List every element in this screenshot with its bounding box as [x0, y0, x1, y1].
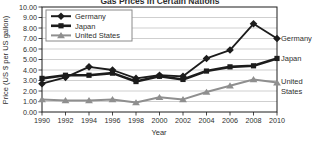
y-tick-label: 5.00 [23, 55, 37, 64]
x-tick-label: 2004 [199, 116, 215, 125]
x-tick-label: 2000 [152, 116, 168, 125]
marker-square-japan [227, 64, 232, 69]
x-tick-label: 2010 [269, 116, 285, 125]
marker-square-japan [204, 68, 209, 73]
legend-item-label: Germany [75, 12, 106, 21]
chart-title: Gas Prices in Certain Nations [100, 0, 219, 6]
marker-square-japan [63, 73, 68, 78]
x-tick-label: 1994 [81, 116, 97, 125]
legend-item-label: Japan [75, 22, 95, 31]
marker-square-japan [39, 76, 44, 81]
marker-square-japan [180, 77, 185, 82]
y-tick-label: 2.00 [23, 87, 37, 96]
y-tick-label: 6.00 [23, 45, 37, 54]
y-axis-label: Price (US $ per US gallon) [1, 15, 10, 104]
marker-square-japan [86, 73, 91, 78]
marker-square-japan [110, 71, 115, 76]
marker-square-japan [157, 74, 162, 79]
series-end-label: Germany [281, 34, 312, 43]
x-tick-label: 2006 [222, 116, 238, 125]
legend-item-label: United States [75, 31, 120, 40]
gas-price-line-chart: 0.001.002.003.004.005.006.007.008.009.00… [0, 0, 313, 141]
x-tick-label: 1998 [128, 116, 144, 125]
y-tick-label: 10.00 [19, 3, 37, 12]
chart-container: 0.001.002.003.004.005.006.007.008.009.00… [0, 0, 313, 141]
marker-square-japan [274, 56, 279, 61]
legend: GermanyJapanUnited States [46, 10, 132, 41]
y-tick-label: 3.00 [23, 76, 37, 85]
y-tick-label: 4.00 [23, 66, 37, 75]
x-tick-label: 1996 [105, 116, 121, 125]
y-tick-label: 1.00 [23, 97, 37, 106]
x-axis-label: Year [151, 128, 167, 137]
series-end-labels-group: GermanyJapanUnitedStates [281, 34, 312, 96]
marker-square-japan [251, 63, 256, 68]
x-tick-label: 1992 [58, 116, 74, 125]
marker-square-legend [58, 23, 63, 28]
series-end-label: United [281, 77, 303, 86]
marker-square-japan [133, 79, 138, 84]
series-end-label: States [281, 87, 303, 96]
x-tick-label: 2008 [246, 116, 262, 125]
y-tick-label: 8.00 [23, 24, 37, 33]
y-tick-label: 7.00 [23, 34, 37, 43]
x-tick-label: 2002 [175, 116, 191, 125]
x-tick-label: 1990 [34, 116, 50, 125]
series-end-label: Japan [281, 54, 301, 63]
y-tick-label: 9.00 [23, 13, 37, 22]
